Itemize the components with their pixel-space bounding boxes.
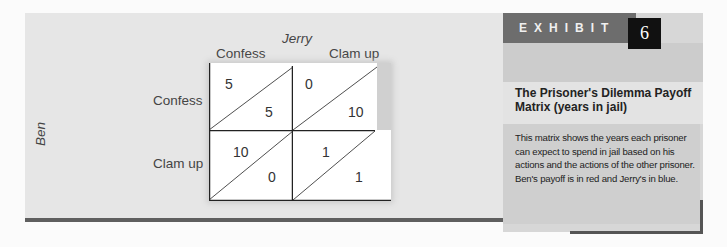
cell-diagonal: [293, 130, 391, 201]
exhibit-description: This matrix shows the years each prisone…: [515, 131, 695, 185]
matrix-cell-clamup-confess: 10 0: [209, 130, 293, 201]
exhibit-header-light-band: [503, 43, 703, 82]
row-strategy-clam-up: Clam up: [153, 156, 203, 171]
payoff-matrix: 5 5 0 10 10 0 1 1: [209, 63, 391, 201]
bottom-rule: [25, 218, 505, 222]
matrix-cell-confess-clamup: 0 10: [293, 63, 377, 130]
ben-payoff: 0: [305, 76, 313, 92]
matrix-cell-confess-confess: 5 5: [209, 63, 293, 130]
matrix-cell-clamup-clamup: 1 1: [293, 130, 391, 201]
ben-payoff: 1: [322, 144, 330, 160]
jerry-payoff: 10: [348, 104, 364, 120]
ben-payoff: 10: [233, 144, 249, 160]
jerry-payoff: 0: [268, 169, 276, 185]
row-strategy-confess: Confess: [153, 93, 203, 108]
description-shadow-right: [700, 200, 703, 234]
jerry-payoff: 1: [355, 169, 363, 185]
column-player-label: Jerry: [282, 31, 312, 46]
cell-diagonal: [293, 63, 377, 130]
column-strategy-confess: Confess: [216, 46, 266, 61]
exhibit-label: EXHIBIT: [519, 21, 615, 35]
description-shadow-bottom: [570, 231, 703, 234]
cell-diagonal: [209, 130, 293, 201]
exhibit-number: 6: [628, 18, 661, 49]
ben-payoff: 5: [225, 76, 233, 92]
column-strategy-clam-up: Clam up: [329, 46, 379, 61]
exhibit-title: The Prisoner's Dilemma Payoff Matrix (ye…: [515, 86, 700, 114]
row-player-label: Ben: [33, 122, 48, 146]
jerry-payoff: 5: [265, 104, 273, 120]
cell-diagonal: [209, 63, 293, 130]
